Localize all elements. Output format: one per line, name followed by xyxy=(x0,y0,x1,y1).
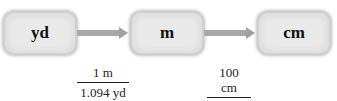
node-label: yd xyxy=(31,23,49,43)
conversion-factor-m-to-cm: 100 cm 1 m xyxy=(207,65,251,101)
fraction-bar xyxy=(77,82,129,83)
arrow-right-icon xyxy=(77,29,129,37)
arrow-right-icon xyxy=(204,29,256,37)
numerator: 100 cm xyxy=(207,65,251,95)
numerator: 1 m xyxy=(77,65,129,80)
conversion-factor-yd-to-m: 1 m 1.094 yd xyxy=(77,65,129,100)
node-label: m xyxy=(160,23,174,43)
node-yd: yd xyxy=(3,11,77,55)
denominator: 1.094 yd xyxy=(77,85,129,100)
node-label: cm xyxy=(283,23,305,43)
node-m: m xyxy=(130,11,204,55)
fraction-bar xyxy=(207,97,251,98)
node-cm: cm xyxy=(257,11,331,55)
denominator: 1 m xyxy=(207,100,251,101)
